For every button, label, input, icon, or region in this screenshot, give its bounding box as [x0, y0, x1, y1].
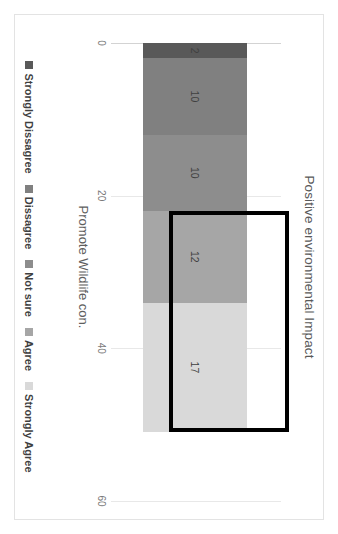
legend-swatch-icon — [25, 328, 33, 336]
legend-item-label: Not sure — [23, 272, 35, 317]
legend-item-not-sure[interactable]: Not sure — [23, 260, 35, 317]
rotated-chart-wrapper: Positive environmental Impact 0204060 21… — [0, 0, 338, 534]
bar-segment-value-label: 10 — [189, 58, 201, 134]
chart-title: Positive environmental Impact — [302, 15, 317, 519]
legend-item-label: Strongly Agree — [23, 394, 35, 472]
stacked-bar[interactable]: 210101217 — [143, 43, 247, 501]
bar-segment-agree[interactable]: 12 — [143, 211, 247, 303]
category-axis-label: Promote Wildlife con. — [76, 15, 91, 519]
legend-item-dissagree[interactable]: Dissagree — [23, 185, 35, 250]
legend-item-strongly-agree[interactable]: Strongly Agree — [23, 382, 35, 472]
chart-page: Positive environmental Impact 0204060 21… — [0, 0, 338, 534]
legend-item-agree[interactable]: Agree — [23, 328, 35, 371]
x-tick-label-60: 60 — [96, 495, 107, 506]
legend-item-strongly-dissagree[interactable]: Strongly Dissagree — [23, 61, 35, 173]
bar-segment-value-label: 10 — [189, 135, 201, 211]
legend-item-label: Dissagree — [23, 197, 35, 250]
x-tick-label-0: 0 — [96, 40, 107, 46]
bar-segment-strongly-agree[interactable]: 17 — [143, 303, 247, 433]
legend-swatch-icon — [25, 61, 33, 69]
legend-item-label: Agree — [23, 340, 35, 371]
legend-swatch-icon — [25, 260, 33, 268]
x-tick-label-20: 20 — [96, 190, 107, 201]
bar-segment-strongly-dissagree[interactable]: 2 — [143, 43, 247, 58]
gridline-60 — [111, 501, 281, 502]
chart-card: Positive environmental Impact 0204060 21… — [14, 14, 324, 520]
x-tick-label-40: 40 — [96, 343, 107, 354]
legend-item-label: Strongly Dissagree — [23, 73, 35, 173]
bar-segment-value-label: 12 — [189, 211, 201, 303]
bar-segment-value-label: 2 — [189, 43, 201, 58]
plot-area: 0204060 210101217 — [111, 43, 281, 501]
legend-swatch-icon — [25, 185, 33, 193]
bar-segment-dissagree[interactable]: 10 — [143, 58, 247, 134]
legend-swatch-icon — [25, 382, 33, 390]
chart-legend: Strongly DissagreeDissagreeNot sureAgree… — [23, 15, 35, 519]
bar-segment-not-sure[interactable]: 10 — [143, 135, 247, 211]
bar-segment-value-label: 17 — [189, 303, 201, 433]
